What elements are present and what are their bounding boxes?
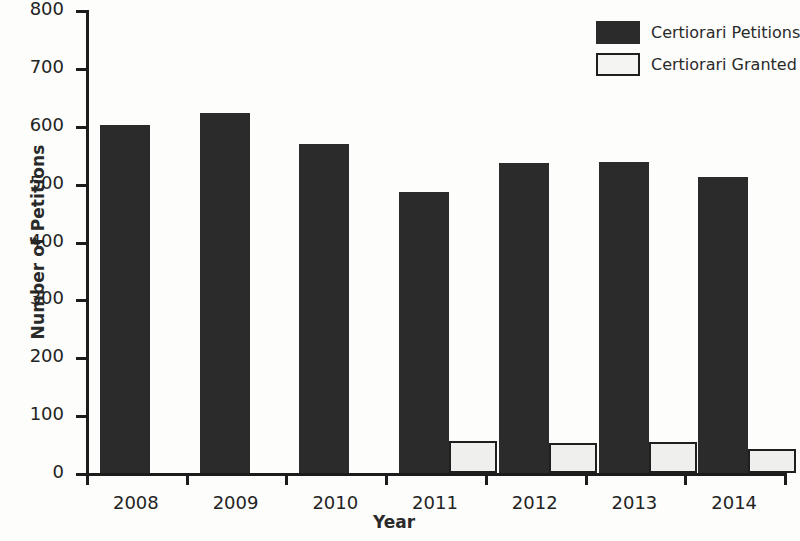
bar-certiorari-petitions — [100, 125, 150, 473]
x-axis-tick — [285, 473, 288, 485]
x-axis-tick — [385, 473, 388, 485]
x-axis-title: Year — [0, 512, 788, 532]
x-axis-line — [86, 473, 784, 476]
y-axis-tick-label: 200 — [30, 345, 64, 366]
y-axis-tick-label: 300 — [30, 287, 64, 308]
y-axis-tick-label: 100 — [30, 403, 64, 424]
x-axis-tick-label: 2014 — [711, 492, 757, 513]
x-axis-tick — [684, 473, 687, 485]
bar-certiorari-petitions — [299, 144, 349, 473]
x-axis-tick-label: 2011 — [412, 492, 458, 513]
x-axis-tick-label: 2010 — [312, 492, 358, 513]
bar-certiorari-petitions — [499, 163, 549, 473]
y-axis-tick: 800 — [76, 10, 87, 13]
y-axis-tick-label: 700 — [30, 56, 64, 77]
legend-swatch-icon — [596, 21, 640, 44]
y-axis-tick: 200 — [76, 357, 87, 360]
y-axis-tick-label: 500 — [30, 172, 64, 193]
bar-certiorari-granted — [549, 443, 597, 473]
x-axis-tick — [86, 473, 89, 485]
bar-certiorari-petitions — [200, 113, 250, 473]
y-axis-tick: 300 — [76, 299, 87, 302]
bar-certiorari-granted — [449, 441, 497, 473]
y-axis-tick-label: 400 — [30, 230, 64, 251]
x-axis-tick — [784, 473, 787, 485]
x-axis-tick-label: 2009 — [213, 492, 259, 513]
x-axis-tick — [186, 473, 189, 485]
y-axis-tick: 400 — [76, 242, 87, 245]
y-axis-tick: 500 — [76, 184, 87, 187]
chart-legend: Certiorari PetitionsCertiorari Granted — [596, 16, 800, 80]
x-axis-tick-label: 2008 — [113, 492, 159, 513]
legend-swatch-icon — [596, 53, 640, 76]
x-axis-tick-label: 2012 — [512, 492, 558, 513]
y-axis-tick-label: 800 — [30, 0, 64, 19]
y-axis-tick: 600 — [76, 126, 87, 129]
bar-certiorari-petitions — [698, 177, 748, 473]
legend-item-label: Certiorari Petitions — [651, 23, 800, 42]
y-axis-tick: 700 — [76, 68, 87, 71]
y-axis-tick-label: 600 — [30, 114, 64, 135]
x-axis-tick-label: 2013 — [612, 492, 658, 513]
y-axis-tick-label: 0 — [53, 461, 64, 482]
legend-item-label: Certiorari Granted — [651, 55, 797, 74]
bar-certiorari-petitions — [399, 192, 449, 473]
x-axis-tick — [585, 473, 588, 485]
bar-certiorari-granted — [649, 442, 697, 473]
x-axis-tick — [485, 473, 488, 485]
legend-item: Certiorari Petitions — [596, 16, 800, 48]
legend-item: Certiorari Granted — [596, 48, 800, 80]
bar-certiorari-granted — [748, 449, 796, 473]
y-axis-tick: 100 — [76, 415, 87, 418]
bar-certiorari-petitions — [599, 162, 649, 473]
